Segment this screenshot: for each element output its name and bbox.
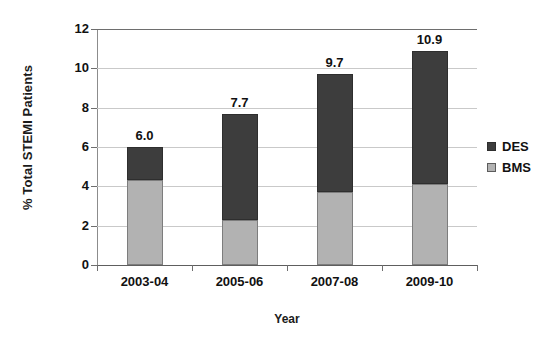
bar-group[interactable] [222, 29, 258, 265]
plot-area [97, 29, 477, 265]
y-tick-label-12: 12 [49, 22, 89, 35]
bar-segment-bms[interactable] [222, 220, 258, 265]
x-tick-label-2005-06: 2005-06 [195, 274, 285, 289]
x-axis-title: Year [97, 312, 477, 326]
x-tick-boundary [287, 265, 288, 271]
bar-group[interactable] [127, 29, 163, 265]
y-tick-label-0: 0 [49, 258, 89, 271]
x-tick-label-2009-10: 2009-10 [385, 274, 475, 289]
bar-segment-des[interactable] [412, 51, 448, 185]
y-axis-title: % Total STEMI Patients [20, 38, 35, 238]
legend-label-des: DES [502, 140, 529, 153]
x-tick-boundary [97, 265, 98, 271]
bar-group[interactable] [412, 29, 448, 265]
x-tick-boundary [477, 265, 478, 271]
legend-item-des[interactable]: DES [487, 136, 531, 157]
y-tick-label-10: 10 [49, 61, 89, 74]
bar-total-label: 7.7 [200, 95, 280, 110]
bar-total-label: 9.7 [295, 55, 375, 70]
legend-item-bms[interactable]: BMS [487, 157, 531, 178]
bar-segment-bms[interactable] [127, 180, 163, 265]
y-tick-label-8: 8 [49, 101, 89, 114]
bar-segment-des[interactable] [317, 74, 353, 192]
chart-legend: DES BMS [487, 136, 531, 178]
stacked-bar-chart: % Total STEMI Patients 024681012 6.07.79… [0, 0, 555, 338]
bar-segment-des[interactable] [222, 114, 258, 220]
bar-segment-des[interactable] [127, 147, 163, 180]
y-tick-label-4: 4 [49, 179, 89, 192]
bar-segment-bms[interactable] [317, 192, 353, 265]
x-tick-boundary [192, 265, 193, 271]
legend-swatch-des-icon [487, 142, 496, 151]
bar-segment-bms[interactable] [412, 184, 448, 265]
legend-label-bms: BMS [502, 161, 531, 174]
legend-swatch-bms-icon [487, 163, 496, 172]
y-tick-label-2: 2 [49, 219, 89, 232]
bar-total-label: 6.0 [105, 128, 185, 143]
bar-total-label: 10.9 [390, 32, 470, 47]
y-tick-label-6: 6 [49, 140, 89, 153]
x-tick-boundary [382, 265, 383, 271]
x-tick-label-2007-08: 2007-08 [290, 274, 380, 289]
x-tick-label-2003-04: 2003-04 [100, 274, 190, 289]
